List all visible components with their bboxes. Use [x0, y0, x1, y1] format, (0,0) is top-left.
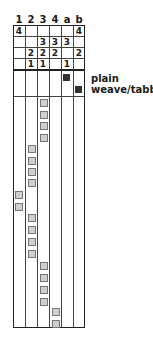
- threading-cell: 3: [49, 37, 61, 48]
- threading-cell: 3: [61, 37, 73, 48]
- treadle-mark: [28, 250, 36, 258]
- treadle-mark: [28, 214, 36, 222]
- treadle-mark: [40, 274, 48, 282]
- threading-cell: 2: [25, 48, 37, 59]
- legend-line-2: weave/tabby: [91, 84, 153, 95]
- legend-line-1: plain: [91, 73, 153, 84]
- treadle-mark: [28, 179, 36, 187]
- grid-divider: [49, 26, 50, 327]
- threading-cell: 1: [37, 59, 49, 70]
- treadle-mark: [40, 122, 48, 130]
- treadle-mark: [40, 262, 48, 270]
- tieup-legend: plain weave/tabby: [91, 73, 153, 95]
- tieup-mark-b: [75, 86, 82, 93]
- threading-cell: 3: [37, 37, 49, 48]
- grid-divider: [61, 26, 62, 327]
- threading-cell: 4: [73, 26, 85, 37]
- tieup-mark-a: [63, 74, 70, 81]
- treadle-mark: [28, 238, 36, 246]
- treadle-mark: [15, 191, 23, 199]
- treadle-mark: [52, 308, 60, 316]
- grid-divider: [37, 26, 38, 327]
- threading-cell: 2: [49, 48, 61, 59]
- treadle-mark: [40, 99, 48, 107]
- threading-cell: 2: [37, 48, 49, 59]
- tieup-separator: [14, 96, 84, 97]
- treadle-mark: [28, 168, 36, 176]
- treadle-mark: [40, 134, 48, 142]
- treadle-mark: [40, 298, 48, 306]
- treadle-mark: [28, 226, 36, 234]
- treadle-mark: [15, 203, 23, 211]
- treadle-mark: [40, 111, 48, 119]
- weave-draft-grid: 4 4 3 3 3 2 2 2 2 1 1 1: [13, 25, 85, 328]
- threading-cell: 1: [25, 59, 37, 70]
- treadle-mark: [28, 157, 36, 165]
- grid-divider: [25, 26, 26, 327]
- threading-cell: 2: [73, 48, 85, 59]
- treadle-mark: [52, 320, 60, 328]
- treadle-mark: [40, 286, 48, 294]
- threading-cell: 1: [61, 59, 73, 70]
- treadle-mark: [28, 145, 36, 153]
- threading-cell: 4: [13, 26, 25, 37]
- grid-divider: [73, 26, 74, 327]
